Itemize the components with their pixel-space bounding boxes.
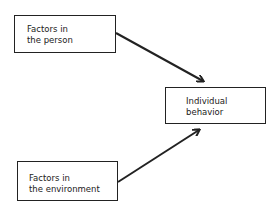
- node-factors-environment: Factors in the environment: [17, 161, 118, 201]
- node-label-line: Factors in: [29, 173, 117, 184]
- node-factors-person: Factors in the person: [14, 15, 116, 53]
- node-label-line: the environment: [29, 184, 117, 195]
- arrow-environment-to-behavior: [118, 130, 199, 182]
- node-label-line: Individual: [186, 96, 265, 107]
- node-label-line: Factors in: [27, 24, 115, 35]
- arrow-person-to-behavior: [116, 33, 203, 81]
- node-individual-behavior: Individual behavior: [165, 87, 266, 124]
- node-label-line: the person: [27, 35, 115, 46]
- node-label-line: behavior: [186, 107, 265, 118]
